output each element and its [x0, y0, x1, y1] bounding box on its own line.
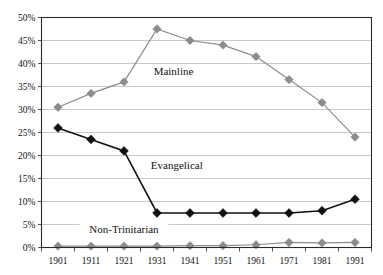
series-label-evangelical: Evangelical	[151, 159, 203, 171]
data-point-marker	[219, 209, 228, 218]
data-point-marker	[252, 209, 261, 218]
x-axis-tick-label: 1901	[49, 256, 68, 266]
series-line	[58, 242, 355, 246]
data-point-marker	[87, 89, 95, 97]
data-point-marker	[120, 78, 128, 86]
data-series-group	[54, 25, 360, 251]
data-point-marker	[219, 241, 227, 249]
x-axis-tick-label: 1911	[82, 256, 101, 266]
data-point-marker	[285, 238, 293, 246]
data-point-marker	[219, 41, 227, 49]
data-point-marker	[54, 124, 63, 133]
x-axis-tick-label: 1991	[346, 256, 365, 266]
y-axis-tick-label: 20%	[18, 151, 36, 161]
x-axis-tick-label: 1951	[214, 256, 233, 266]
data-point-marker	[285, 75, 293, 83]
data-point-marker	[54, 103, 62, 111]
y-axis-tick-label: 25%	[18, 128, 36, 138]
data-point-marker	[318, 239, 326, 247]
y-axis-tick-label: 30%	[18, 105, 36, 115]
data-point-marker	[153, 209, 162, 218]
data-point-marker	[120, 147, 129, 156]
series-label-non-trinitarian: Non-Trinitarian	[89, 223, 159, 235]
x-axis-tick-label: 1961	[247, 256, 266, 266]
y-axis-tick-label: 40%	[18, 59, 36, 69]
y-axis-tick-label: 50%	[18, 13, 36, 23]
series-line	[58, 29, 355, 137]
y-axis-tick-label: 15%	[18, 174, 36, 184]
data-point-marker	[153, 25, 161, 33]
y-axis-tick-labels: 50%45%40%35%30%25%20%15%10%5%0%	[18, 13, 36, 253]
data-point-marker	[87, 135, 96, 144]
x-axis-tick-label: 1981	[313, 256, 332, 266]
y-axis-tick-label: 45%	[18, 36, 36, 46]
data-point-marker	[285, 209, 294, 218]
data-point-marker	[252, 52, 260, 60]
y-axis-tick-label: 0%	[23, 243, 36, 253]
x-axis-tick-label: 1921	[115, 256, 134, 266]
x-axis-tick-label: 1931	[148, 256, 167, 266]
x-axis-tick-label: 1971	[280, 256, 299, 266]
y-axis-tick-label: 10%	[18, 197, 36, 207]
data-point-marker	[186, 36, 194, 44]
data-point-marker	[318, 206, 327, 215]
series-label-mainline: Mainline	[154, 65, 194, 77]
y-axis-tick-label: 35%	[18, 82, 36, 92]
series-mainline	[54, 25, 359, 142]
chart-canvas: 50%45%40%35%30%25%20%15%10%5%0% 19011911…	[0, 0, 383, 275]
data-point-marker	[54, 242, 62, 250]
data-point-marker	[351, 195, 360, 204]
data-point-marker	[186, 209, 195, 218]
line-chart: 50%45%40%35%30%25%20%15%10%5%0% 19011911…	[0, 0, 383, 275]
x-axis-tick-labels: 1901191119211931194119511961197119811991	[49, 256, 365, 266]
x-axis-tick-label: 1941	[181, 256, 200, 266]
data-point-marker	[87, 242, 95, 250]
data-point-marker	[351, 238, 359, 246]
y-axis-tick-label: 5%	[23, 220, 36, 230]
data-point-marker	[153, 242, 161, 250]
data-point-marker	[186, 241, 194, 249]
data-point-marker	[120, 242, 128, 250]
